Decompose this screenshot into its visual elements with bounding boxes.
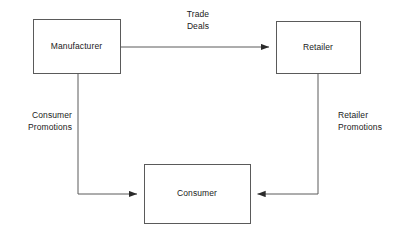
- edge-label-trade-deals: Trade Deals: [158, 9, 238, 32]
- edge-line-consumer-promotions: [78, 74, 137, 195]
- diagram-canvas: Manufacturer Retailer Consumer Trade Dea…: [0, 0, 403, 237]
- node-label-manufacturer: Manufacturer: [33, 41, 120, 52]
- edge-label-consumer-promotions-line2: Promotions: [0, 122, 72, 134]
- edge-label-consumer-promotions-line1: Consumer: [0, 110, 72, 122]
- edge-label-consumer-promotions: Consumer Promotions: [0, 110, 72, 133]
- node-label-consumer: Consumer: [144, 188, 250, 199]
- edge-label-retailer-promotions: Retailer Promotions: [338, 110, 403, 133]
- edge-label-trade-deals-line1: Trade: [158, 9, 238, 21]
- edge-label-retailer-promotions-line1: Retailer: [338, 110, 403, 122]
- edge-label-trade-deals-line2: Deals: [158, 21, 238, 33]
- edge-line-retailer-promotions: [258, 74, 319, 195]
- node-label-retailer: Retailer: [276, 42, 360, 53]
- edge-label-retailer-promotions-line2: Promotions: [338, 122, 403, 134]
